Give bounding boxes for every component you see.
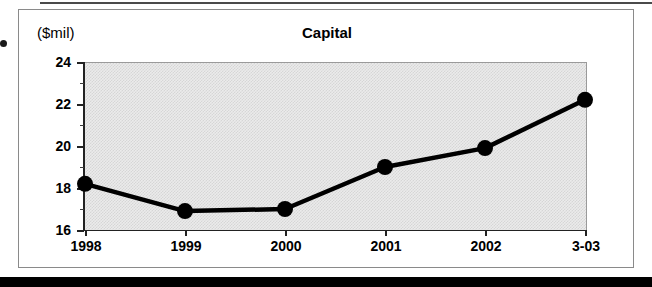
x-tick-mark (85, 230, 87, 236)
y-tick-label: 16 (27, 222, 71, 238)
chart-figure-box: ($mil) Capital 24 22 20 18 16 1998 1999 … (18, 9, 634, 268)
x-tick-label: 1999 (146, 238, 226, 254)
x-tick-mark (285, 230, 287, 236)
plot-area (84, 62, 587, 231)
y-tick-mark (77, 104, 84, 106)
bottom-black-band (0, 277, 652, 287)
x-tick-mark (485, 230, 487, 236)
bullet-fragment-icon (0, 40, 7, 47)
y-tick-label: 24 (27, 54, 71, 70)
y-minor-tick-mark (80, 209, 84, 210)
y-tick-label: 18 (27, 180, 71, 196)
x-tick-label: 2001 (346, 238, 426, 254)
x-tick-mark (585, 230, 587, 236)
y-minor-tick-mark (80, 167, 84, 168)
y-minor-tick-mark (80, 83, 84, 84)
x-tick-label: 2002 (446, 238, 526, 254)
y-tick-label: 22 (27, 96, 71, 112)
y-tick-label: 20 (27, 138, 71, 154)
x-tick-label: 1998 (46, 238, 126, 254)
chart-title: Capital (19, 24, 635, 41)
y-tick-mark (77, 62, 84, 64)
x-tick-mark (385, 230, 387, 236)
x-tick-mark (185, 230, 187, 236)
y-tick-mark (77, 230, 84, 232)
x-tick-label: 2000 (246, 238, 326, 254)
top-divider-rule (40, 2, 652, 4)
x-tick-label: 3-03 (546, 238, 626, 254)
y-minor-tick-mark (80, 125, 84, 126)
y-tick-mark (77, 146, 84, 148)
y-tick-mark (77, 188, 84, 190)
x-axis-line (83, 230, 587, 232)
